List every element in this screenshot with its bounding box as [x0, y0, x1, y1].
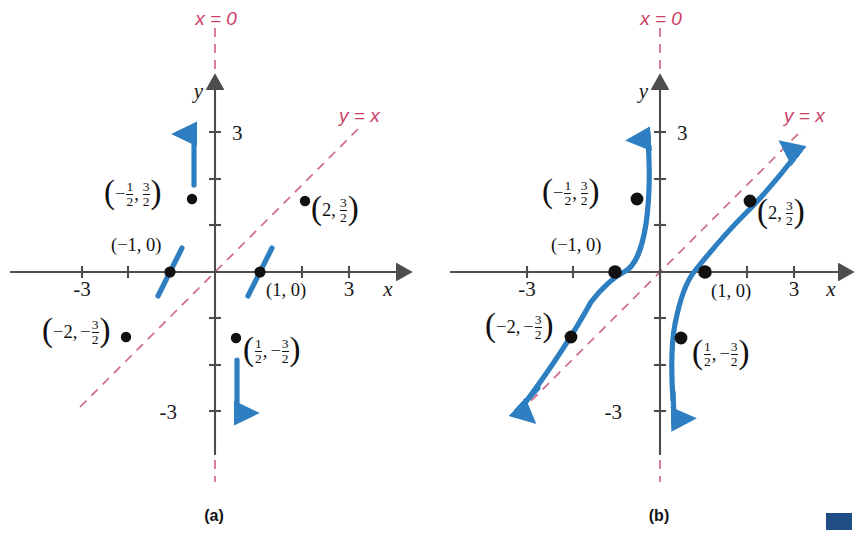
point-label-1-0: (1, 0): [266, 281, 306, 300]
x-axis-label: x: [382, 277, 393, 301]
data-point: [675, 332, 688, 345]
panel-caption-b: (b): [649, 507, 669, 524]
x-axis-label: x: [825, 277, 836, 301]
point-label--2--3-2: (−2, − 32 ): [485, 313, 554, 342]
panel-b: -3 3 3 -3 x y x = 0 y = x (b): [428, 0, 856, 533]
figure-root: -3 3 3 -3 x y x = 0 y = x (a): [0, 0, 856, 533]
data-point: [565, 331, 578, 344]
data-point: [187, 194, 197, 204]
data-point: [608, 265, 622, 279]
identity-line-label: y = x: [782, 105, 826, 126]
data-point: [164, 266, 175, 277]
y-tick-label-3: 3: [677, 121, 688, 145]
y-axis-label: y: [637, 79, 649, 103]
data-point: [254, 266, 265, 277]
asymptote-label: x = 0: [639, 8, 682, 29]
curve-left-branch-arrow-tail: [520, 388, 538, 408]
point-label--1-2-3-2: (− 12 , 32 ): [104, 180, 162, 209]
point-label-2-3-2: (2, 32 ): [311, 196, 359, 225]
point-label--1-0: (−1, 0): [551, 236, 602, 255]
asymptote-label: x = 0: [194, 8, 237, 29]
y-tick-label-3: 3: [232, 121, 243, 145]
point-label-1-2--3-2: ( 12 ,− 32 ): [243, 337, 301, 366]
point-label--2--3-2: (−2, − 32 ): [42, 318, 111, 347]
data-point: [698, 265, 712, 279]
y-tick-label--3: -3: [605, 400, 623, 424]
x-tick-label-3: 3: [789, 277, 800, 301]
identity-line-y-equals-x: [520, 129, 803, 412]
data-point: [744, 195, 757, 208]
point-label-2-3-2: (2, 32 ): [757, 199, 805, 228]
panel-caption-a: (a): [204, 507, 224, 524]
identity-line-label: y = x: [337, 105, 381, 126]
point-label-1-2--3-2: ( 12 ,− 32 ): [692, 340, 750, 369]
data-point: [121, 332, 131, 342]
y-axis-label: y: [192, 79, 204, 103]
panel-a-svg: -3 3 3 -3 x y x = 0 y = x (a): [0, 0, 428, 533]
x-tick-label-3: 3: [344, 277, 355, 301]
point-label-1-0: (1, 0): [711, 282, 751, 301]
data-point: [300, 196, 310, 206]
x-tick-label--3: -3: [518, 277, 536, 301]
color-swatch: [826, 513, 852, 530]
curve-right-branch-arrow-tail: [673, 392, 674, 418]
x-tick-label--3: -3: [73, 277, 91, 301]
point-label--1-0: (−1, 0): [111, 236, 162, 255]
panel-b-svg: -3 3 3 -3 x y x = 0 y = x (b): [428, 0, 856, 533]
data-point: [631, 193, 644, 206]
panel-a: -3 3 3 -3 x y x = 0 y = x (a): [0, 0, 428, 533]
data-point: [231, 333, 241, 343]
point-label--1-2-3-2: (− 12 , 32 ): [542, 179, 600, 208]
y-tick-label--3: -3: [160, 400, 178, 424]
